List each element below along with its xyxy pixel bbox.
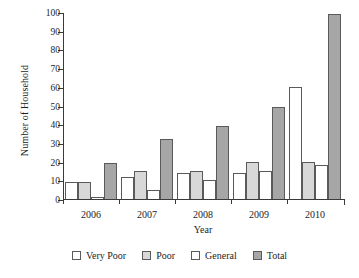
y-tick-label: 30: [51, 139, 61, 149]
bar-poor: [190, 171, 203, 199]
bar-poor: [78, 182, 91, 199]
x-tick-label: 2009: [249, 209, 269, 220]
bar-total: [328, 14, 341, 199]
x-tick-mark: [119, 199, 120, 204]
legend-swatch-icon: [253, 251, 262, 260]
x-axis-line: [63, 199, 345, 200]
bar-very-poor: [289, 87, 302, 199]
bar-groups: 20062007200820092010: [63, 13, 343, 199]
x-tick-mark: [63, 199, 64, 204]
bar-poor: [302, 162, 315, 199]
bar-general: [203, 180, 216, 199]
y-tick-label: 90: [51, 27, 61, 37]
legend-item[interactable]: Poor: [142, 250, 175, 261]
legend-item[interactable]: Very Poor: [72, 250, 126, 261]
legend-swatch-icon: [142, 251, 151, 260]
x-tick-label: 2007: [137, 209, 157, 220]
bar-very-poor: [177, 173, 190, 199]
x-tick-label: 2008: [193, 209, 213, 220]
x-tick-mark: [344, 200, 345, 205]
bar-group: 2010: [287, 13, 343, 199]
bar-very-poor: [121, 177, 134, 199]
x-tick-mark: [287, 199, 288, 204]
y-tick-label: 50: [51, 102, 61, 112]
bar-total: [272, 107, 285, 199]
y-tick-label: 0: [55, 195, 60, 205]
bar-general: [147, 190, 160, 199]
legend-label: Very Poor: [86, 250, 126, 261]
bar-total: [104, 163, 117, 199]
bar-chart: Number of Household 01020304050607080901…: [0, 0, 359, 278]
y-tick-label: 40: [51, 120, 61, 130]
legend-label: Poor: [156, 250, 175, 261]
x-tick-mark: [175, 199, 176, 204]
bar-group: 2009: [231, 13, 287, 199]
bar-total: [160, 139, 173, 199]
y-tick-label: 70: [51, 64, 61, 74]
x-tick-mark: [231, 199, 232, 204]
bar-group: 2008: [175, 13, 231, 199]
chart-legend: Very PoorPoorGeneralTotal: [0, 250, 359, 261]
x-axis-title: Year: [63, 224, 343, 235]
legend-label: Total: [267, 250, 287, 261]
bar-total: [216, 126, 229, 199]
bar-group: 2007: [119, 13, 175, 199]
bar-general: [259, 171, 272, 199]
plot-area: 0102030405060708090100 20062007200820092…: [63, 13, 343, 200]
legend-label: General: [205, 250, 237, 261]
bar-poor: [246, 162, 259, 199]
legend-item[interactable]: General: [191, 250, 237, 261]
legend-swatch-icon: [72, 251, 81, 260]
y-tick-label: 80: [51, 45, 61, 55]
bar-very-poor: [233, 173, 246, 199]
y-tick-label: 60: [51, 83, 61, 93]
y-axis-title: Number of Household: [19, 41, 30, 181]
y-tick-label: 10: [51, 176, 61, 186]
x-tick-label: 2006: [81, 209, 101, 220]
x-tick-label: 2010: [305, 209, 325, 220]
legend-swatch-icon: [191, 251, 200, 260]
bar-very-poor: [65, 182, 78, 199]
bar-group: 2006: [63, 13, 119, 199]
legend-item[interactable]: Total: [253, 250, 287, 261]
bar-general: [315, 165, 328, 199]
bar-general: [91, 197, 104, 199]
y-tick-label: 20: [51, 158, 61, 168]
y-tick-label: 100: [46, 8, 60, 18]
bar-poor: [134, 171, 147, 199]
